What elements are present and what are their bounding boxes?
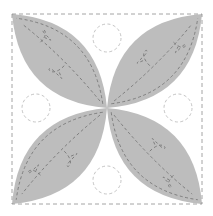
quilt-block: [0, 0, 213, 216]
